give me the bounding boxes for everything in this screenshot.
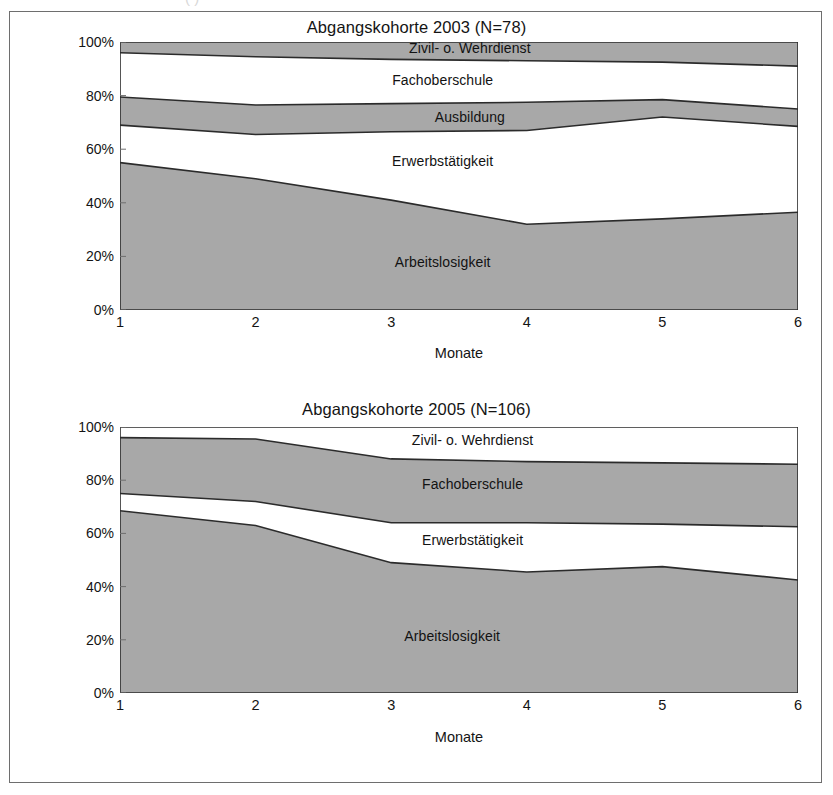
band-label-arbeitslosigkeit: Arbeitslosigkeit [395, 254, 491, 270]
chart-2-x-axis-label: Monate [120, 729, 798, 745]
band-label-fachoberschule: Fachoberschule [422, 476, 523, 492]
band-label-zivil-o-wehrdienst: Zivil- o. Wehrdienst [409, 40, 531, 56]
chart-1-plot-area: Zivil- o. WehrdienstFachoberschuleAusbil… [120, 42, 798, 310]
y-tick-label: 60% [86, 525, 114, 541]
y-tick-label: 40% [86, 579, 114, 595]
y-tick-label: 20% [86, 248, 114, 264]
chart-2-area-svg [120, 427, 798, 693]
chart-abgangskohorte-2003: Abgangskohorte 2003 (N=78) 0%20%40%60%80… [10, 12, 823, 394]
band-label-erwerbstätigkeit: Erwerbstätigkeit [392, 153, 493, 169]
y-tick-label: 100% [78, 419, 114, 435]
figure-frame: Abgangskohorte 2003 (N=78) 0%20%40%60%80… [9, 11, 822, 783]
band-label-erwerbstätigkeit: Erwerbstätigkeit [422, 532, 523, 548]
chart-2-x-axis: 123456 [120, 697, 798, 719]
x-tick-label: 2 [252, 314, 260, 330]
chart-1-title: Abgangskohorte 2003 (N=78) [10, 18, 823, 37]
y-tick-label: 0% [94, 302, 114, 318]
chart-1-x-axis: 123456 [120, 314, 798, 336]
y-tick-label: 40% [86, 195, 114, 211]
y-tick-label: 20% [86, 632, 114, 648]
x-tick-label: 6 [794, 697, 802, 713]
x-tick-label: 3 [387, 697, 395, 713]
x-tick-label: 3 [387, 314, 395, 330]
x-tick-label: 1 [116, 697, 124, 713]
y-tick-label: 60% [86, 141, 114, 157]
y-tick-label: 80% [86, 472, 114, 488]
band-label-ausbildung: Ausbildung [435, 109, 505, 125]
x-tick-label: 4 [523, 697, 531, 713]
chart-abgangskohorte-2005: Abgangskohorte 2005 (N=106) 0%20%40%60%8… [10, 394, 823, 783]
x-tick-label: 5 [658, 314, 666, 330]
chart-1-x-axis-label: Monate [120, 345, 798, 361]
x-tick-label: 5 [658, 697, 666, 713]
band-label-arbeitslosigkeit: Arbeitslosigkeit [404, 628, 500, 644]
band-label-zivil-o-wehrdienst: Zivil- o. Wehrdienst [412, 432, 534, 448]
band-label-fachoberschule: Fachoberschule [392, 72, 493, 88]
x-tick-label: 6 [794, 314, 802, 330]
x-tick-label: 4 [523, 314, 531, 330]
y-tick-label: 80% [86, 88, 114, 104]
y-tick-label: 0% [94, 685, 114, 701]
chart-2-y-axis: 0%20%40%60%80%100% [52, 427, 114, 693]
y-tick-label: 100% [78, 34, 114, 50]
scan-artifact-text: ( ) [185, 0, 199, 6]
x-tick-label: 1 [116, 314, 124, 330]
chart-2-plot-area: Zivil- o. WehrdienstFachoberschuleErwerb… [120, 427, 798, 693]
x-tick-label: 2 [252, 697, 260, 713]
chart-2-title: Abgangskohorte 2005 (N=106) [10, 400, 823, 419]
chart-1-y-axis: 0%20%40%60%80%100% [52, 42, 114, 310]
scan-artifact-strip: ( ) [0, 0, 833, 10]
